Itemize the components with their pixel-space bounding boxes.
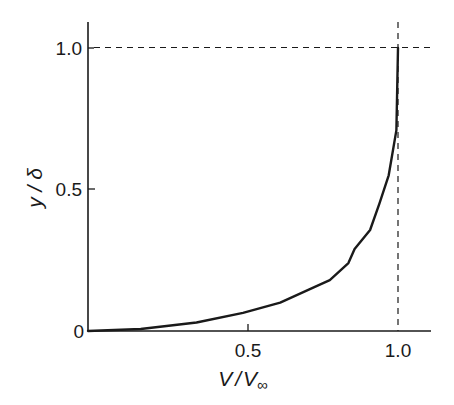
y-axis-label: y / δ xyxy=(23,168,46,210)
x-tick-label-10: 1.0 xyxy=(385,340,411,361)
velocity-profile-curve xyxy=(88,48,398,331)
y-tick-label-10: 1.0 xyxy=(56,38,82,59)
x-axis-label: V/V∞ xyxy=(218,367,268,393)
boundary-layer-chart: 1.0 0.5 0 0.5 1.0 V/V∞ y / δ xyxy=(0,0,454,405)
y-tick-label-05: 0.5 xyxy=(56,179,82,200)
x-tick-label-05: 0.5 xyxy=(235,340,261,361)
y-tick-label-0: 0 xyxy=(73,321,84,342)
